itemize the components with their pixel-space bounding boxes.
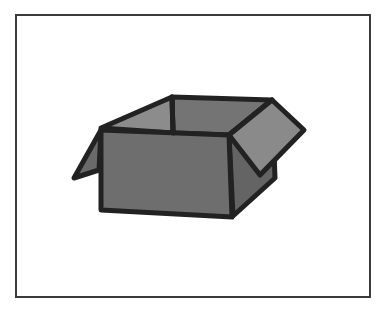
box-interior-left <box>101 97 173 133</box>
box-inner-edge <box>172 97 173 133</box>
box-flap-left <box>74 130 101 178</box>
open-box-illustration <box>0 0 388 311</box>
box-front-face <box>101 130 232 217</box>
